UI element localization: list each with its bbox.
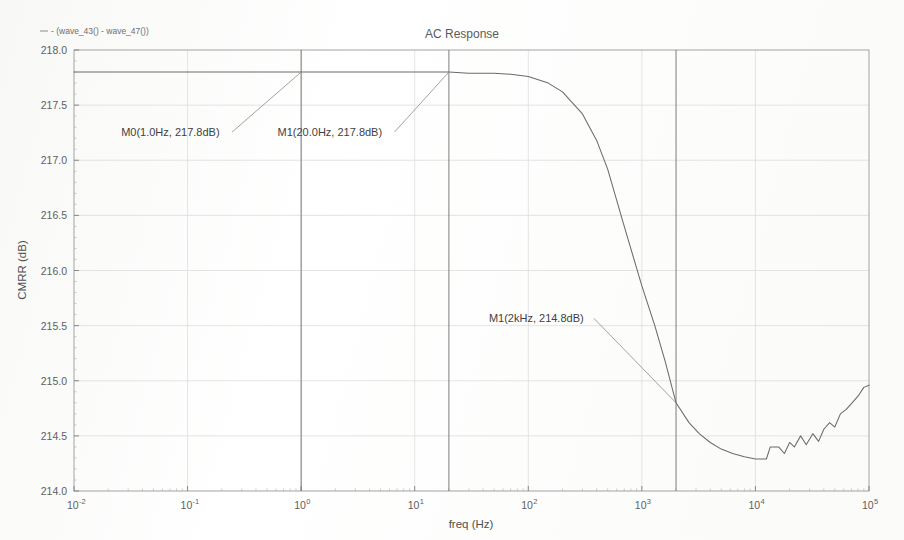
marker-label: M1(2kHz, 214.8dB) — [489, 312, 584, 324]
x-tick-exponent: 4 — [760, 497, 764, 506]
y-tick-label: 215.0 — [41, 375, 67, 387]
marker-label: M0(1.0Hz, 217.8dB) — [121, 126, 219, 138]
x-tick-exponent: 1 — [420, 497, 424, 506]
marker-leader-line — [395, 72, 449, 132]
x-tick-label: 100 — [294, 497, 310, 511]
x-tick-mantissa: 10 — [181, 499, 193, 511]
x-tick-mantissa: 10 — [635, 499, 647, 511]
x-tick-mantissa: 10 — [408, 499, 420, 511]
ac-response-chart: - (wave_43() - wave_47()) AC Response 10… — [0, 0, 904, 540]
x-tick-label: 101 — [408, 497, 424, 511]
x-tick-exponent: 3 — [647, 497, 651, 506]
x-tick-label: 102 — [521, 497, 537, 511]
x-axis-label: freq (Hz) — [449, 518, 494, 530]
x-tick-labels: 10-210-1100101102103104105 — [67, 497, 878, 511]
x-tick-label: 105 — [862, 497, 878, 511]
x-tick-label: 10-1 — [181, 497, 200, 511]
marker-label: M1(20.0Hz, 217.8dB) — [278, 126, 383, 138]
y-tick-label: 214.0 — [41, 485, 67, 497]
marker-leader-line — [594, 318, 676, 402]
y-tick-label: 217.5 — [41, 99, 67, 111]
x-tick-label: 104 — [748, 497, 764, 511]
y-tick-labels: 214.0214.5215.0215.5216.0216.5217.0217.5… — [41, 44, 67, 497]
x-tick-exponent: 0 — [306, 497, 310, 506]
x-tick-mantissa: 10 — [748, 499, 760, 511]
x-tick-exponent: 5 — [874, 497, 878, 506]
x-tick-label: 10-2 — [67, 497, 86, 511]
x-tick-label: 103 — [635, 497, 651, 511]
y-axis-label: CMRR (dB) — [16, 240, 28, 300]
chart-title: AC Response — [425, 27, 499, 41]
legend: - (wave_43() - wave_47()) — [40, 26, 149, 36]
y-tick-label: 217.0 — [41, 154, 67, 166]
x-tick-mantissa: 10 — [294, 499, 306, 511]
x-tick-mantissa: 10 — [67, 499, 79, 511]
marker-leader-line — [232, 72, 301, 132]
x-tick-exponent: 2 — [533, 497, 537, 506]
gridlines — [74, 50, 869, 491]
y-tick-label: 218.0 — [41, 44, 67, 56]
y-tick-label: 215.5 — [41, 320, 67, 332]
y-tick-label: 216.0 — [41, 265, 67, 277]
legend-entry-label: - (wave_43() - wave_47()) — [51, 26, 149, 36]
x-tick-mantissa: 10 — [521, 499, 533, 511]
x-tick-exponent: -1 — [193, 497, 200, 506]
y-tick-label: 214.5 — [41, 430, 67, 442]
x-tick-exponent: -2 — [79, 497, 86, 506]
x-tick-mantissa: 10 — [862, 499, 874, 511]
y-tick-label: 216.5 — [41, 209, 67, 221]
